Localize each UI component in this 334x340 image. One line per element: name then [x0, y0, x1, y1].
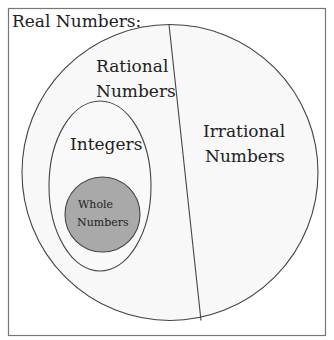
whole-label-line1: Whole: [78, 198, 113, 211]
rational-label-line2: Numbers: [96, 81, 176, 101]
irrational-label-line1: Irrational: [203, 121, 285, 141]
real-numbers-label: Real Numbers:: [12, 11, 141, 31]
rational-label-line1: Rational: [96, 56, 168, 76]
whole-numbers-circle: [65, 177, 140, 252]
irrational-label-line2: Numbers: [205, 146, 285, 166]
integers-label: Integers: [70, 134, 142, 154]
number-sets-diagram: Real Numbers: Rational Numbers Irrationa…: [0, 0, 334, 340]
whole-label-line2: Numbers: [77, 216, 129, 229]
